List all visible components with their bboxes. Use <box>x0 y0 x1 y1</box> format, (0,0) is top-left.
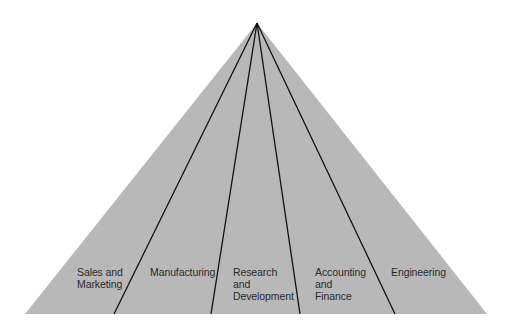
label-line: Development <box>233 290 294 302</box>
label-line: and <box>233 278 294 290</box>
segment-label-manufacturing: Manufacturing <box>150 266 215 278</box>
label-line: and <box>315 278 366 290</box>
label-line: Marketing <box>77 278 123 290</box>
label-line: Accounting <box>315 266 366 278</box>
label-line: Finance <box>315 290 366 302</box>
label-line: Engineering <box>391 266 446 278</box>
segment-label-engineering: Engineering <box>391 266 446 278</box>
segment-label-research-development: Research and Development <box>233 266 294 302</box>
segment-label-accounting-finance: Accounting and Finance <box>315 266 366 302</box>
label-line: Sales and <box>77 266 123 278</box>
label-line: Manufacturing <box>150 266 215 278</box>
label-line: Research <box>233 266 294 278</box>
segment-label-sales-marketing: Sales and Marketing <box>77 266 123 290</box>
